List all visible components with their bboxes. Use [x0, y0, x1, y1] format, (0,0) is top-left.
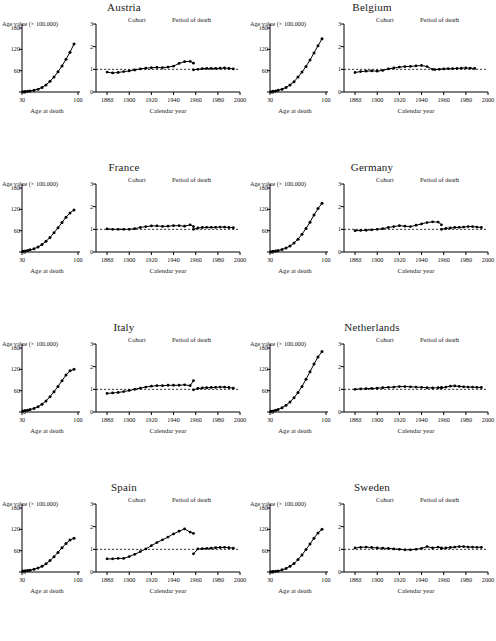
country-panel-germany: GermanyAge value (× 100,000)060120180301… [248, 160, 496, 320]
country-panel-france: FranceAge value (× 100,000)0601201803010… [0, 160, 248, 320]
country-panel-netherlands: NetherlandsAge value (× 100,000)06012018… [248, 320, 496, 480]
right-subplot-netherlands [248, 320, 496, 480]
right-subplot-france [0, 160, 248, 320]
country-panel-sweden: SwedenAge value (× 100,000)0601201803010… [248, 480, 496, 640]
right-subplot-sweden [248, 480, 496, 640]
figure-grid: AustriaAge value (× 100,000)060120180301… [0, 0, 496, 641]
right-subplot-belgium [248, 0, 496, 160]
right-subplot-austria [0, 0, 248, 160]
right-subplot-italy [0, 320, 248, 480]
right-subplot-germany [248, 160, 496, 320]
country-panel-austria: AustriaAge value (× 100,000)060120180301… [0, 0, 248, 160]
country-panel-belgium: BelgiumAge value (× 100,000)060120180301… [248, 0, 496, 160]
country-panel-italy: ItalyAge value (× 100,000)06012018030100… [0, 320, 248, 480]
country-panel-spain: SpainAge value (× 100,000)06012018030100… [0, 480, 248, 640]
right-subplot-spain [0, 480, 248, 640]
